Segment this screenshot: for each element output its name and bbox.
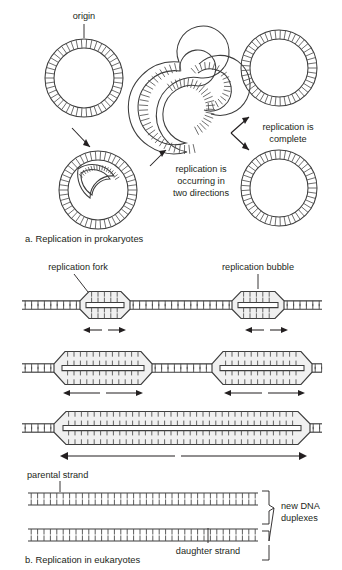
new-duplexes-line-2: duplexes [281, 513, 318, 523]
complete-line-2: complete [269, 134, 306, 144]
dna-replication-figure: origin [0, 0, 342, 570]
replication-bubble-label: replication bubble [222, 262, 294, 272]
replication-fork-label: replication fork [48, 262, 108, 272]
daughter-strand-label: daughter strand [176, 546, 240, 556]
two-directions-line-1: replication is [175, 164, 226, 174]
new-duplexes-line-1: new DNA [281, 501, 321, 511]
two-directions-line-2: occurring in [177, 176, 225, 186]
panel-a-caption: a. Replication in prokaryotes [25, 233, 144, 244]
parental-strand-label: parental strand [27, 470, 88, 480]
panel-b-caption: b. Replication in eukaryotes [25, 554, 140, 565]
complete-line-1: replication is [262, 122, 313, 132]
two-directions-label: replication is occurring in two directio… [173, 164, 230, 198]
origin-label: origin [73, 11, 95, 21]
two-directions-line-3: two directions [173, 188, 230, 198]
